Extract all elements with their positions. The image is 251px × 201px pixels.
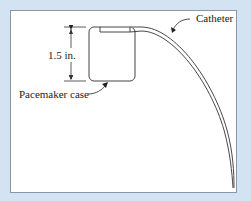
case-leader-arrow xyxy=(88,85,106,94)
catheter-label: Catheter xyxy=(196,13,233,24)
dimension-label: 1.5 in. xyxy=(48,50,76,61)
pacemaker-catheter-diagram xyxy=(0,0,251,201)
catheter-leader-arrow xyxy=(173,19,190,30)
catheter-shape xyxy=(130,27,234,188)
pacemaker-case-shape xyxy=(89,27,136,81)
pacemaker-case-label: Pacemaker case xyxy=(19,89,89,100)
catheter-leader-arrowhead-icon xyxy=(171,27,176,33)
arrowhead-down-icon xyxy=(69,75,73,80)
case-leader-arrowhead-icon xyxy=(102,82,108,88)
arrowhead-up-icon xyxy=(69,29,73,34)
